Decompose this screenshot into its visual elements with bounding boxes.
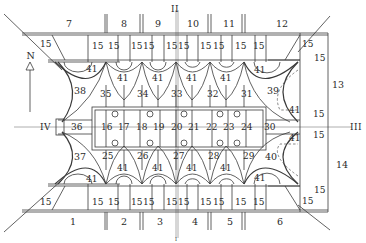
bottom-bay-labels: 1 2 3 4 5 6 bbox=[70, 216, 283, 227]
room-label: 12 bbox=[276, 18, 288, 29]
room-label: 15 bbox=[235, 41, 247, 51]
axis-label-top: II bbox=[171, 4, 179, 14]
top-bay-labels: 7 8 9 10 11 12 bbox=[66, 18, 288, 29]
room-label: 15 bbox=[302, 196, 314, 206]
axis-label-right: III bbox=[350, 122, 362, 132]
room-label: 29 bbox=[243, 151, 255, 161]
room-label: 41 bbox=[117, 163, 128, 173]
room-label: 28 bbox=[208, 151, 220, 161]
room-label: 15 bbox=[178, 197, 190, 207]
room-label: 5 bbox=[227, 216, 233, 227]
room-label: 20 bbox=[171, 122, 183, 132]
axis-label-left: IV bbox=[40, 122, 51, 132]
room-label: 8 bbox=[121, 18, 127, 29]
hall-39-label: 39 bbox=[267, 85, 279, 96]
room-label: 17 bbox=[118, 122, 130, 132]
central-row-labels: 36 16 17 18 19 20 21 22 23 24 30 bbox=[71, 122, 276, 132]
hall-37-label: 37 bbox=[74, 151, 86, 162]
room-label: 41 bbox=[220, 73, 231, 83]
room-label: 15 bbox=[108, 41, 120, 51]
room-label: 25 bbox=[102, 151, 114, 161]
hall-40-label: 40 bbox=[265, 151, 277, 162]
room-label: 33 bbox=[171, 89, 183, 99]
room-label: 36 bbox=[71, 122, 83, 132]
room-label: 21 bbox=[188, 122, 199, 132]
room-label: 15 bbox=[166, 41, 178, 51]
axis-label-bottom: I bbox=[175, 236, 177, 242]
room-label: 15 bbox=[92, 197, 104, 207]
room-label: 41 bbox=[117, 73, 128, 83]
upper-chamber-labels: 35 34 33 32 31 bbox=[100, 89, 252, 99]
room-label: 41 bbox=[86, 64, 97, 74]
room-label: 15 bbox=[235, 197, 247, 207]
room-label: 22 bbox=[206, 122, 217, 132]
room-label: 15 bbox=[143, 41, 155, 51]
room-label: 15 bbox=[166, 197, 178, 207]
room-label: 15 bbox=[178, 41, 190, 51]
room-label: 15 bbox=[200, 41, 212, 51]
room-label: 6 bbox=[277, 216, 283, 227]
room-label: 41 bbox=[186, 163, 197, 173]
room-label: 2 bbox=[121, 216, 127, 227]
room-label: 35 bbox=[100, 89, 112, 99]
room-label: 19 bbox=[153, 122, 165, 132]
room-label: 24 bbox=[241, 122, 253, 132]
room-label: 41 bbox=[254, 173, 265, 183]
room-label: 26 bbox=[137, 151, 149, 161]
room-label: 11 bbox=[223, 18, 235, 29]
room-label: 10 bbox=[187, 18, 199, 29]
hall-38-label: 38 bbox=[74, 85, 86, 96]
room-label: 15 bbox=[131, 41, 143, 51]
room-label: 41 bbox=[289, 133, 300, 143]
north-arrow-icon: N bbox=[26, 50, 35, 112]
bay-14-label: 14 bbox=[336, 159, 348, 170]
room-label: 9 bbox=[155, 18, 161, 29]
room-label: 15 bbox=[213, 197, 225, 207]
room-label: 23 bbox=[223, 122, 235, 132]
room-label: 31 bbox=[241, 89, 252, 99]
room-label: 15 bbox=[253, 41, 265, 51]
room-label: 7 bbox=[66, 18, 72, 29]
room-label: 30 bbox=[264, 122, 276, 132]
room-label: 34 bbox=[137, 89, 149, 99]
room-label: 4 bbox=[192, 216, 198, 227]
north-label: N bbox=[27, 50, 35, 61]
room-label: 3 bbox=[157, 216, 163, 227]
room-label: 16 bbox=[101, 122, 113, 132]
room-label: 27 bbox=[173, 151, 185, 161]
room-label: 15 bbox=[131, 197, 143, 207]
room-label: 41 bbox=[289, 105, 300, 115]
room-label: 15 bbox=[40, 197, 52, 207]
room-label: 15 bbox=[108, 197, 120, 207]
room-label: 41 bbox=[254, 65, 265, 75]
room-label: 41 bbox=[86, 174, 97, 184]
room-label: 15 bbox=[314, 53, 326, 63]
room-label: 15 bbox=[313, 130, 325, 140]
room-label: 41 bbox=[186, 73, 197, 83]
room-label: 32 bbox=[207, 89, 218, 99]
room-label: 41 bbox=[152, 73, 163, 83]
room-label: 41 bbox=[220, 163, 231, 173]
room-label: 15 bbox=[40, 39, 52, 49]
room-label: 18 bbox=[136, 122, 148, 132]
room-label: 15 bbox=[92, 41, 104, 51]
room-label: 15 bbox=[253, 197, 265, 207]
room-label: 15 bbox=[302, 39, 314, 49]
room-label: 1 bbox=[70, 216, 76, 227]
room-label: 15 bbox=[213, 41, 225, 51]
room-label: 15 bbox=[143, 197, 155, 207]
room-label: 15 bbox=[313, 109, 325, 119]
bay-13-label: 13 bbox=[332, 79, 344, 90]
room-label: 41 bbox=[152, 163, 163, 173]
floor-plan-diagram: N II I IV III 7 8 9 10 11 12 1 2 3 4 5 6… bbox=[0, 0, 366, 243]
room-label: 15 bbox=[314, 185, 326, 195]
room-label: 15 bbox=[200, 197, 212, 207]
